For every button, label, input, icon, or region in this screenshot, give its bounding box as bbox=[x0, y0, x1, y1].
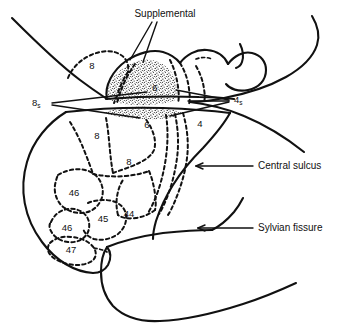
precentral-sulcus-dashed-b bbox=[159, 114, 178, 214]
frontal-lobe-outline bbox=[23, 112, 93, 273]
callout-sylvian-fissure-label: Sylvian fissure bbox=[258, 222, 323, 233]
label-area-44: 44 bbox=[124, 208, 135, 219]
brain-map-figure: Supplemental Central sulcus Sylvian fiss… bbox=[0, 0, 339, 327]
label-area-6-medial: 6 bbox=[152, 82, 157, 93]
boundary-area-44-left bbox=[117, 180, 124, 215]
callout-supplemental-label: Supplemental bbox=[134, 8, 195, 19]
boundary-area-8-6-divide bbox=[106, 118, 113, 173]
temporal-lobe-outline bbox=[101, 247, 296, 321]
label-area-8-superior: 8 bbox=[89, 60, 94, 71]
callout-central-sulcus-label: Central sulcus bbox=[258, 160, 321, 171]
label-8s: 8s bbox=[32, 97, 41, 109]
sylvian-fissure-line bbox=[107, 230, 212, 247]
label-area-6-lateral: 6 bbox=[144, 119, 149, 130]
central-sulcus-leader bbox=[196, 163, 253, 169]
label-area-8-mid: 8 bbox=[94, 130, 99, 141]
label-area-46-lower: 46 bbox=[62, 222, 73, 233]
boundary-area-8-lower-box bbox=[93, 171, 149, 176]
diagram-canvas: Supplemental Central sulcus Sylvian fiss… bbox=[0, 0, 339, 327]
label-4s: 4s bbox=[234, 94, 243, 106]
label-area-4: 4 bbox=[197, 118, 202, 129]
central-sulcus-line bbox=[153, 113, 230, 239]
sylvian-posterior-ramus bbox=[212, 198, 243, 230]
superior-medial-arc bbox=[12, 18, 107, 99]
cingulate-gyrus-right bbox=[226, 53, 266, 91]
label-area-47: 47 bbox=[66, 244, 77, 255]
label-area-8-lower: 8 bbox=[126, 156, 131, 167]
boundary-area-8-lateral bbox=[70, 122, 93, 174]
boundary-stipple-right-b bbox=[180, 63, 190, 104]
label-area-45: 45 bbox=[98, 213, 109, 224]
label-area-46-upper: 46 bbox=[69, 187, 80, 198]
boundary-medial-small-arc bbox=[196, 58, 212, 60]
